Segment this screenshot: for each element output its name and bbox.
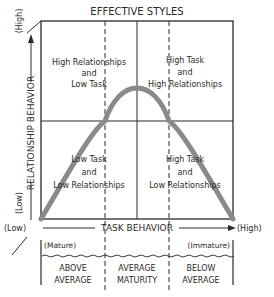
svg-text:High Relationships: High Relationships [148,80,222,89]
corner-diagonal-top [27,21,41,33]
mature-label: (Mature) [44,241,76,250]
svg-text:Low Relationships: Low Relationships [53,181,125,190]
svg-text:Low Task: Low Task [71,155,107,164]
quadrant-bottom-left: Low Task and Low Relationships [53,155,125,190]
svg-text:High Relationships: High Relationships [52,58,126,67]
diagram-title: EFFECTIVE STYLES [90,6,183,17]
maturity-scale: (Mature) (Immature) ABOVE AVERAGE AVERAG… [41,240,234,285]
band-average-maturity-line2: MATURITY [117,276,157,285]
svg-text:and: and [177,168,192,177]
quadrant-top-right: High Task and High Relationships [148,56,222,89]
svg-text:and: and [81,168,96,177]
band-below-average-line2: AVERAGE [182,276,219,285]
y-axis-high-label: (High) [15,9,24,34]
x-axis: (Low) TASK BEHAVIOR (High) [4,223,262,233]
y-axis-label: RELATIONSHIP BEHAVIOR [26,76,36,190]
y-axis-low-label: (Low) [15,192,24,214]
situational-leadership-diagram: EFFECTIVE STYLES High Relationships and … [0,0,274,297]
band-above-average-line1: ABOVE [59,264,87,273]
x-axis-low-label: (Low) [4,224,26,233]
svg-text:High Task: High Task [166,155,205,164]
y-axis-arrow-icon [28,34,34,43]
svg-text:Low Relationships: Low Relationships [149,181,221,190]
y-axis: RELATIONSHIP BEHAVIOR (High) (Low) [15,9,36,220]
x-axis-arrow-icon [228,225,236,231]
band-average-maturity-line1: AVERAGE [118,264,155,273]
immature-label: (Immature) [188,241,231,250]
svg-text:High Task: High Task [166,56,205,65]
svg-text:and: and [177,68,192,77]
quadrant-top-left: High Relationships and Low Task [52,58,126,89]
x-axis-label: TASK BEHAVIOR [100,223,173,233]
svg-text:and: and [81,69,96,78]
quadrant-bottom-right: High Task and Low Relationships [149,155,221,190]
svg-text:Low Task: Low Task [71,80,107,89]
maturity-wavy-line [42,255,234,257]
band-below-average-line1: BELOW [187,264,216,273]
band-above-average-line2: AVERAGE [54,276,91,285]
x-axis-high-label: (High) [237,224,262,233]
corner-diagonal-bottom [12,237,27,255]
